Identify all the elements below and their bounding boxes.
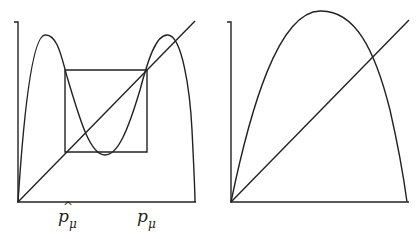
right-plot bbox=[227, 11, 409, 202]
left-plot bbox=[14, 21, 196, 202]
tick-label-mu-subscript: μ bbox=[148, 217, 156, 231]
tick-label-mu-subscript: μ bbox=[69, 217, 77, 231]
tick-label-p-mu: pμ bbox=[137, 208, 156, 228]
right-identity-line bbox=[231, 20, 409, 202]
tick-label-p-hat: p bbox=[58, 206, 69, 226]
left-second-iterate-curve bbox=[18, 35, 195, 202]
tick-label-p: p bbox=[137, 206, 148, 226]
right-y-axis bbox=[227, 22, 231, 202]
tick-label-p-hat-mu: pμ bbox=[58, 208, 77, 228]
left-y-axis bbox=[14, 22, 18, 202]
left-identity-line bbox=[18, 21, 195, 202]
right-parabola-curve bbox=[231, 11, 407, 202]
